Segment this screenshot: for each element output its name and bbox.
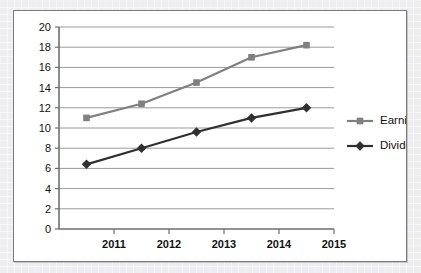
y-tick-label: 4: [45, 183, 51, 195]
legend-marker-icon: [355, 141, 365, 151]
y-tick-label: 0: [45, 223, 51, 235]
legend-label: Earning per share: [380, 114, 406, 126]
data-point-marker: [302, 103, 312, 113]
data-point-marker: [82, 160, 92, 170]
y-tick-label: 16: [39, 61, 51, 73]
legend-marker-icon: [357, 118, 364, 125]
y-tick-label: 20: [39, 21, 51, 33]
screenshot-root: 02468101214161820 20112012201320142015 E…: [0, 0, 421, 273]
x-tick-label: 2015: [322, 238, 346, 250]
data-point-marker: [138, 100, 145, 107]
data-point-marker: [247, 113, 257, 123]
chart-panel: 02468101214161820 20112012201320142015 E…: [13, 10, 407, 262]
x-tick-label: 2014: [267, 238, 292, 250]
chart-legend: Earning per shareDividend per share: [347, 114, 406, 151]
y-tick-label: 2: [45, 203, 51, 215]
y-tick-label: 10: [39, 122, 51, 134]
y-tick-label: 8: [45, 142, 51, 154]
x-tick-label: 2013: [212, 238, 236, 250]
y-tick-label: 6: [45, 162, 51, 174]
series-square: [83, 42, 310, 121]
y-tick-label: 18: [39, 41, 51, 53]
x-tick-label: 2011: [102, 238, 126, 250]
y-axis-ticks: 02468101214161820: [39, 21, 59, 235]
data-point-marker: [192, 127, 202, 137]
data-point-marker: [193, 79, 200, 86]
data-point-marker: [137, 143, 147, 153]
legend-label: Dividend per share: [380, 139, 406, 151]
data-series-layer: [82, 42, 312, 169]
data-point-marker: [83, 115, 90, 122]
x-tick-label: 2012: [157, 238, 181, 250]
x-axis-ticks: 20112012201320142015: [102, 229, 346, 250]
data-point-marker: [248, 54, 255, 61]
y-tick-label: 12: [39, 102, 51, 114]
line-chart: 02468101214161820 20112012201320142015 E…: [14, 11, 406, 261]
data-point-marker: [303, 42, 310, 49]
y-tick-label: 14: [39, 82, 51, 94]
series-diamond: [82, 103, 312, 169]
